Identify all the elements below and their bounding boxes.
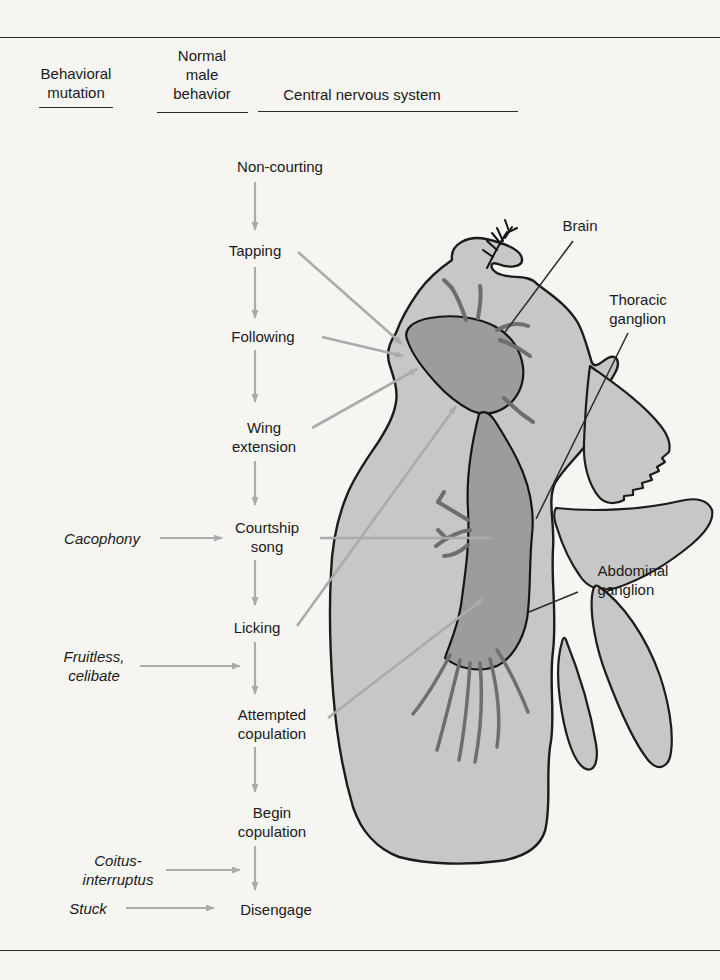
behavior-step-disengage: Disengage — [240, 900, 312, 919]
cns-label-brain: Brain — [562, 216, 597, 235]
mutation-coitus-interruptus: Coitus- interruptus — [83, 851, 154, 889]
mutation-stuck: Stuck — [69, 899, 107, 918]
bottom-rule — [0, 950, 720, 951]
behavior-step-licking: Licking — [234, 618, 281, 637]
underline-behavioral-mutation — [39, 107, 113, 108]
column-header-central-nervous-system: Central nervous system — [283, 85, 441, 104]
diagram-canvas — [0, 0, 720, 980]
behavior-step-non-courting: Non-courting — [237, 157, 323, 176]
behavior-step-courtship-song: Courtship song — [235, 518, 299, 556]
cns-label-thoracic-ganglion: Thoracic ganglion — [609, 290, 667, 328]
behavior-step-tapping: Tapping — [229, 241, 282, 260]
fly-leg-shape — [592, 585, 672, 766]
connector-tapping-to-brain — [298, 252, 402, 344]
cns-label-abdominal-ganglion: Abdominal ganglion — [598, 561, 669, 599]
behavior-step-begin-copulation: Begin copulation — [238, 803, 306, 841]
underline-central-nervous-system — [258, 111, 518, 112]
behavior-step-attempted-copulation: Attempted copulation — [238, 705, 306, 743]
mutation-fruitless-celibate: Fruitless, celibate — [64, 647, 125, 685]
column-header-normal-male-behavior: Normal male behavior — [173, 46, 231, 103]
figure-root: Behavioral mutation Normal male behavior… — [0, 0, 720, 980]
top-rule — [0, 37, 720, 38]
fly-leg-shape — [558, 638, 597, 770]
behavior-step-following: Following — [231, 327, 294, 346]
mutation-cacophony: Cacophony — [64, 529, 140, 548]
column-header-behavioral-mutation: Behavioral mutation — [41, 64, 112, 102]
fly-wing-serrated-shape — [584, 366, 670, 503]
behavior-step-wing-extension: Wing extension — [232, 418, 296, 456]
underline-normal-male-behavior — [157, 112, 248, 113]
